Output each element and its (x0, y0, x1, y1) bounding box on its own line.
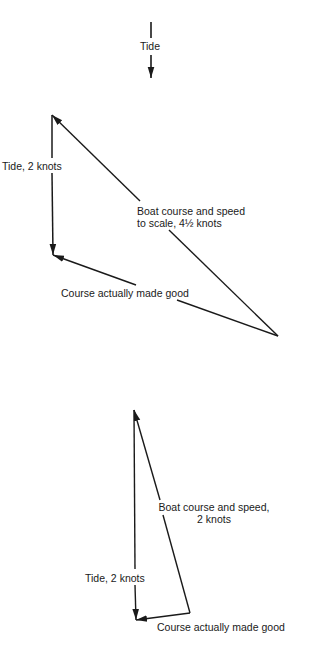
bottom-course-vector (136, 613, 190, 620)
bottom-course-label: Course actually made good (157, 621, 285, 633)
top-course-vector (177, 300, 278, 336)
top-tide-label: Tide, 2 knots (2, 160, 62, 172)
bottom-boat-vector (163, 515, 190, 613)
bottom-boat-label-line1: Boat course and speed, (154, 501, 274, 513)
top-boat-label: Boat course and speed to scale, 4½ knots (137, 205, 245, 229)
vector-diagram-canvas (0, 0, 311, 659)
top-boat-vector (169, 230, 278, 336)
bottom-boat-label-line2: 2 knots (154, 513, 274, 525)
bottom-boat-label: Boat course and speed, 2 knots (154, 501, 274, 525)
top-course-label: Course actually made good (61, 287, 189, 299)
top-boat-label-line2: to scale, 4½ knots (137, 217, 245, 229)
bottom-tide-label: Tide, 2 knots (85, 572, 145, 584)
tide-indicator-label: Tide (140, 40, 160, 52)
top-boat-label-line1: Boat course and speed (137, 205, 245, 217)
bottom-tide-vector (134, 410, 135, 569)
